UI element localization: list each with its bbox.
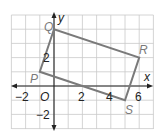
- vertex-label-s: S: [125, 103, 133, 117]
- coordinate-plane: −2 2 4 6 2 −2 x y O P Q R S: [0, 0, 162, 136]
- x-tick-2: 2: [78, 90, 85, 104]
- x-tick-neg2: −2: [15, 90, 29, 104]
- x-axis-left-arrow-icon: [11, 84, 17, 89]
- x-tick-4: 4: [106, 90, 113, 104]
- y-tick-2: 2: [43, 51, 50, 65]
- vertex-label-q: Q: [44, 20, 53, 34]
- x-tick-6: 6: [135, 90, 142, 104]
- y-tick-neg2: −2: [36, 108, 50, 122]
- origin-label: O: [40, 90, 49, 104]
- y-axis-down-arrow-icon: [52, 125, 57, 131]
- rectangle-pqrs: [40, 29, 139, 100]
- x-axis-label: x: [143, 70, 151, 84]
- vertex-label-r: R: [139, 43, 148, 57]
- vertex-label-p: P: [30, 72, 38, 86]
- x-axis-right-arrow-icon: [147, 84, 153, 89]
- y-axis-label: y: [57, 11, 65, 25]
